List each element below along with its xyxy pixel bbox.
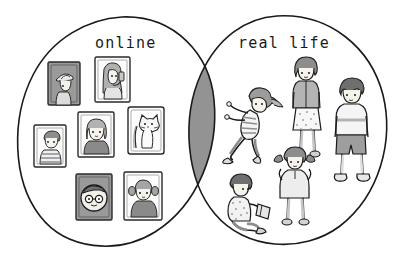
figure-standing-boy[interactable] — [334, 78, 370, 181]
figure-standing-girl[interactable] — [293, 57, 321, 157]
frame-glasses-face[interactable] — [76, 174, 112, 220]
frame-cat[interactable] — [128, 107, 164, 154]
frame-hat-person[interactable] — [48, 62, 80, 105]
frame-selfie-girl[interactable] — [95, 57, 130, 102]
frame-pigtails-girl[interactable] — [124, 172, 162, 220]
real-life-items-group — [223, 57, 370, 234]
frame-striped-boy[interactable] — [34, 125, 66, 167]
figure-pigtails-girl-real[interactable] — [274, 147, 315, 225]
label-real-life: real life — [238, 34, 330, 52]
venn-diagram: online real life — [0, 0, 405, 264]
frame-bob-girl[interactable] — [78, 112, 114, 157]
online-items-group — [34, 57, 164, 220]
figure-pushing-girl[interactable] — [223, 88, 283, 164]
label-online: online — [95, 34, 156, 52]
figure-reading-boy[interactable] — [228, 174, 270, 234]
venn-canvas: online real life — [0, 0, 405, 264]
